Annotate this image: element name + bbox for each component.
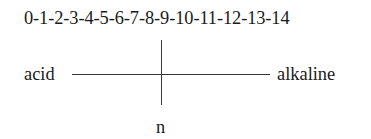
acid-label: acid [24, 63, 55, 85]
alkaline-label: alkaline [277, 63, 335, 85]
neutral-label: n [156, 116, 165, 138]
ph-scale-label: 0-1-2-3-4-5-6-7-8-9-10-11-12-13-14 [24, 6, 352, 30]
horizontal-axis-line [72, 74, 270, 75]
vertical-axis-line [161, 40, 162, 105]
